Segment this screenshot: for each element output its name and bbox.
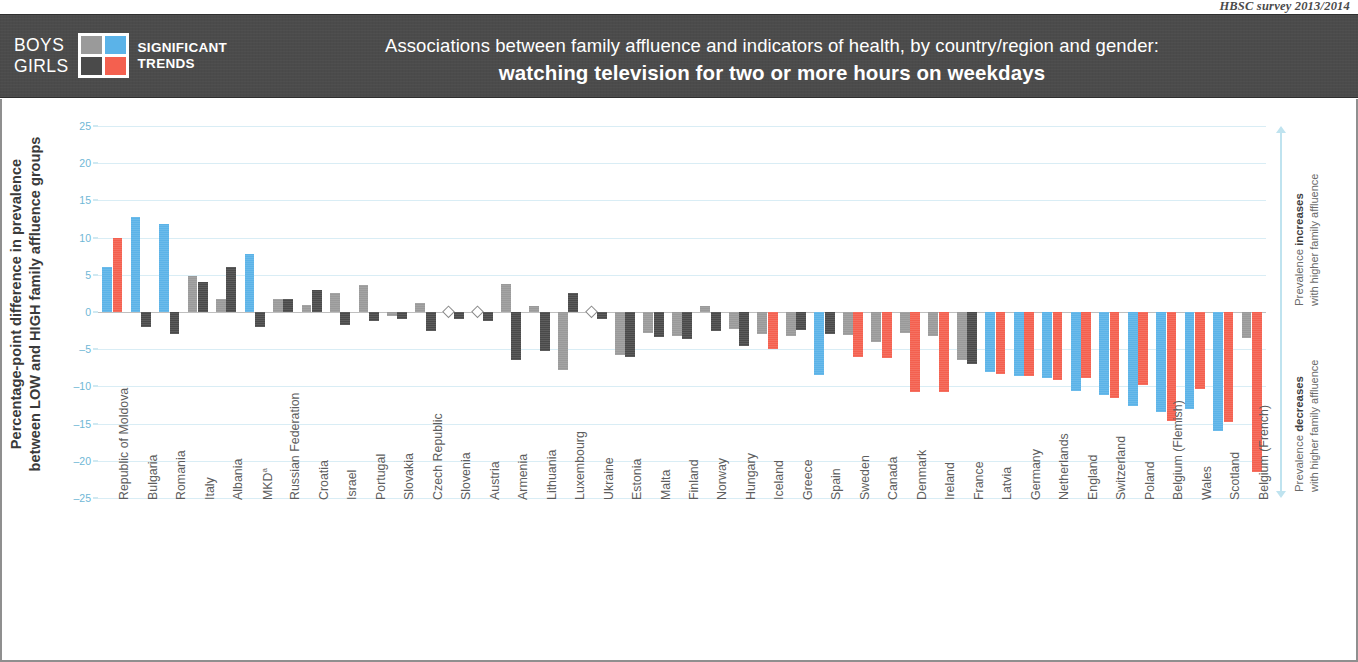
- y-tick-mark--10: [93, 386, 98, 387]
- bar-boys-29: [928, 312, 938, 336]
- y-tick-mark-15: [93, 200, 98, 201]
- bar-girls-20: [682, 312, 692, 339]
- swatch-girls-not-significant: [81, 57, 102, 75]
- bar-girls-17: [597, 312, 607, 319]
- bar-boys-35: [1099, 312, 1109, 395]
- bar-girls-32: [1024, 312, 1034, 376]
- y-tick-mark-25: [93, 126, 98, 127]
- bar-boys-27: [871, 312, 881, 342]
- increase-annotation-text: Prevalence increaseswith higher family a…: [1292, 174, 1321, 306]
- legend: BOYS GIRLS SIGNIFICANT TRENDS: [14, 33, 227, 78]
- y-tick-label-0: 0: [85, 306, 91, 318]
- legend-gender-labels: BOYS GIRLS: [14, 35, 69, 76]
- bar-boys-7: [302, 305, 312, 312]
- x-axis-label-7: Croatia: [317, 460, 331, 500]
- bar-girls-22: [739, 312, 749, 346]
- y-tick-label--20: –20: [73, 455, 91, 467]
- bar-boys-20: [672, 312, 682, 336]
- decrease-arrow-head: [1276, 491, 1286, 498]
- bar-girls-33: [1053, 312, 1063, 380]
- bar-boys-16: [558, 312, 568, 370]
- x-axis-label-33: Netherlands: [1057, 433, 1071, 500]
- bar-boys-23: [757, 312, 767, 334]
- decrease-annotation-text: Prevalence decreaseswith higher family a…: [1292, 360, 1321, 492]
- bar-girls-16: [568, 293, 578, 312]
- bar-boys-2: [159, 224, 169, 312]
- bar-girls-0: [113, 238, 123, 312]
- y-tick-label--25: –25: [73, 492, 91, 504]
- bar-boys-30: [957, 312, 967, 360]
- bar-girls-1: [141, 312, 151, 327]
- gridline--10: [98, 386, 1266, 387]
- x-axis-label-26: Sweden: [858, 455, 872, 500]
- bar-girls-24: [796, 312, 806, 330]
- bar-girls-11: [426, 312, 436, 331]
- no-data-diamond-boys-12: [443, 305, 456, 318]
- x-axis-label-36: Poland: [1143, 461, 1157, 500]
- figure-root: HBSC survey 2013/2014 BOYS GIRLS SIGNIFI…: [0, 0, 1358, 662]
- x-axis-label-39: Scotland: [1228, 452, 1242, 500]
- bar-boys-4: [216, 299, 226, 312]
- swatch-girls-significant: [105, 57, 126, 75]
- bar-girls-13: [483, 312, 493, 321]
- bar-boys-15: [529, 306, 539, 312]
- x-axis-label-13: Austria: [488, 461, 502, 500]
- bar-girls-30: [967, 312, 977, 364]
- x-axis-label-30: France: [972, 461, 986, 500]
- x-axis-label-29: Ireland: [943, 462, 957, 500]
- bar-girls-38: [1195, 312, 1205, 389]
- bar-girls-39: [1224, 312, 1234, 422]
- x-axis-label-22: Hungary: [744, 453, 758, 500]
- bar-girls-19: [654, 312, 664, 337]
- x-axis-label-17: Ukraine: [602, 457, 616, 500]
- bar-girls-9: [369, 312, 379, 321]
- y-tick-label--15: –15: [73, 418, 91, 430]
- bar-boys-5: [245, 254, 255, 312]
- bar-girls-4: [226, 267, 236, 312]
- y-axis-title: Percentage-point difference in prevalenc…: [10, 112, 42, 496]
- no-data-diamond-boys-17: [585, 305, 598, 318]
- y-tick-mark-5: [93, 274, 98, 275]
- bar-boys-6: [273, 299, 283, 312]
- x-axis-label-8: Israel: [345, 470, 359, 500]
- x-axis-label-38: Wales: [1200, 466, 1214, 500]
- bar-boys-31: [985, 312, 995, 372]
- bar-girls-34: [1081, 312, 1091, 378]
- x-axis-label-27: Canada: [886, 457, 900, 500]
- y-tick-mark--20: [93, 460, 98, 461]
- bar-girls-35: [1110, 312, 1120, 398]
- bar-girls-18: [625, 312, 635, 357]
- chart-title-line1: Associations between family affluence an…: [200, 33, 1344, 59]
- side-annotations: Prevalence increaseswith higher family a…: [1276, 120, 1356, 502]
- bar-girls-29: [939, 312, 949, 392]
- x-axis-label-12: Slovenia: [459, 452, 473, 500]
- y-tick-label-15: 15: [79, 194, 91, 206]
- bar-girls-10: [397, 312, 407, 319]
- bar-girls-14: [511, 312, 521, 360]
- legend-girls-label: GIRLS: [14, 56, 69, 77]
- bar-girls-26: [853, 312, 863, 357]
- plot-canvas: 2520151050–5–10–15–20–25: [98, 126, 1266, 498]
- x-axis-label-3: Italy: [203, 477, 217, 500]
- x-axis-label-21: Norway: [715, 458, 729, 500]
- y-tick-mark-0: [93, 312, 98, 313]
- x-axis-label-35: Switzerland: [1114, 436, 1128, 500]
- x-axis-label-23: Iceland: [772, 460, 786, 500]
- bar-boys-14: [501, 284, 511, 312]
- x-axis-label-6: Russian Federation: [288, 393, 302, 500]
- x-axis-label-9: Portugal: [374, 454, 388, 500]
- bar-boys-25: [814, 312, 824, 375]
- y-tick-label-25: 25: [79, 120, 91, 132]
- bar-boys-8: [330, 293, 340, 312]
- x-axis-label-28: Denmark: [915, 450, 929, 500]
- bar-boys-0: [102, 267, 112, 312]
- bar-girls-5: [255, 312, 265, 327]
- bar-girls-27: [882, 312, 892, 358]
- swatch-boys-not-significant: [81, 36, 102, 54]
- gridline-25: [98, 126, 1266, 127]
- bar-boys-1: [131, 217, 141, 312]
- y-tick-mark-20: [93, 163, 98, 164]
- bar-boys-21: [700, 306, 710, 312]
- x-axis-label-40: Belgium (French): [1257, 405, 1271, 500]
- bar-girls-36: [1138, 312, 1148, 385]
